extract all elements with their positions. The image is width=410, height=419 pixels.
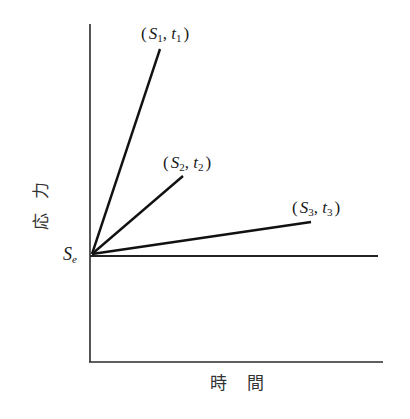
stress-symbol: S [149, 24, 158, 43]
open-paren: ( [139, 24, 149, 43]
point-label-3: (S3, t3) [290, 199, 342, 218]
endurance-limit-label: Se [63, 245, 77, 265]
se-symbol: S [63, 244, 72, 264]
close-paren: ) [332, 198, 342, 217]
x-axis-label: 時間 [210, 375, 284, 392]
point-label-1: (S1, t1) [139, 25, 191, 44]
load-ray-1 [92, 49, 160, 254]
stress-time-diagram [0, 0, 410, 419]
close-paren: ) [203, 153, 213, 172]
point-label-2: (S2, t2) [161, 154, 213, 173]
open-paren: ( [161, 153, 171, 172]
stress-symbol: S [300, 198, 309, 217]
y-axis-label: 応力 [33, 168, 50, 230]
se-subscript: e [72, 253, 77, 265]
comma: , [185, 153, 189, 172]
close-paren: ) [181, 24, 191, 43]
open-paren: ( [290, 198, 300, 217]
comma: , [163, 24, 167, 43]
comma: , [314, 198, 318, 217]
stress-symbol: S [171, 153, 180, 172]
